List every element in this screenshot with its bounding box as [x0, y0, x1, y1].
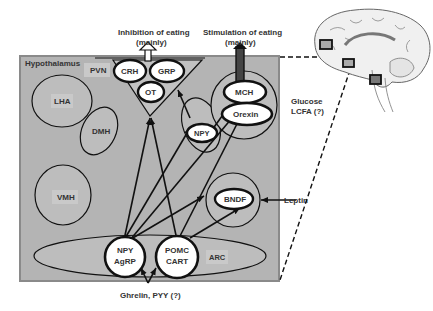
ot-label: OT: [145, 88, 156, 97]
mch-label: MCH: [235, 88, 253, 97]
crh-label: CRH: [121, 67, 139, 76]
brain-illustration: [315, 9, 430, 112]
brain-marker-1: [320, 40, 332, 49]
hypothalamus-diagram: Hypothalamus PVN LHA DMH VMH ARC: [0, 0, 433, 311]
vmh-label: VMH: [57, 193, 75, 202]
ghrelin-label: Ghrelin, PYY (?): [120, 291, 181, 300]
glucose-label: Glucose: [291, 97, 323, 106]
npy-dmh-label: NPY: [194, 129, 209, 138]
dmh-label: DMH: [92, 127, 110, 136]
lha-label: LHA: [54, 97, 71, 106]
grp-label: GRP: [158, 67, 176, 76]
bndf-label: BNDF: [224, 195, 246, 204]
orexin-label: Orexin: [233, 110, 258, 119]
brain-marker-3: [370, 75, 381, 84]
pomc-cart-label-2: CART: [166, 257, 188, 266]
inhibition-title-1: Inhibition of eating: [118, 28, 190, 37]
npy-agrp-label-2: AgRP: [114, 257, 136, 266]
brain-marker-hypothalamus: [343, 59, 354, 67]
pomc-cart-label-1: POMC: [165, 246, 189, 255]
arc-label: ARC: [209, 253, 226, 262]
lcfa-label: LCFA (?): [291, 107, 324, 116]
stimulation-title-1: Stimulation of eating: [203, 28, 282, 37]
pvn-label: PVN: [90, 66, 107, 75]
stimulation-title-2: (mainly): [225, 38, 256, 47]
leptin-label: Leptin: [284, 196, 308, 205]
hypothalamus-label: Hypothalamus: [25, 59, 81, 68]
inhibition-title-2: (mainly): [136, 38, 167, 47]
npy-agrp-label-1: NPY: [117, 246, 134, 255]
arc-region: [34, 235, 266, 277]
